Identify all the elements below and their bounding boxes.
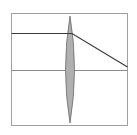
lens-diagram xyxy=(0,0,137,135)
